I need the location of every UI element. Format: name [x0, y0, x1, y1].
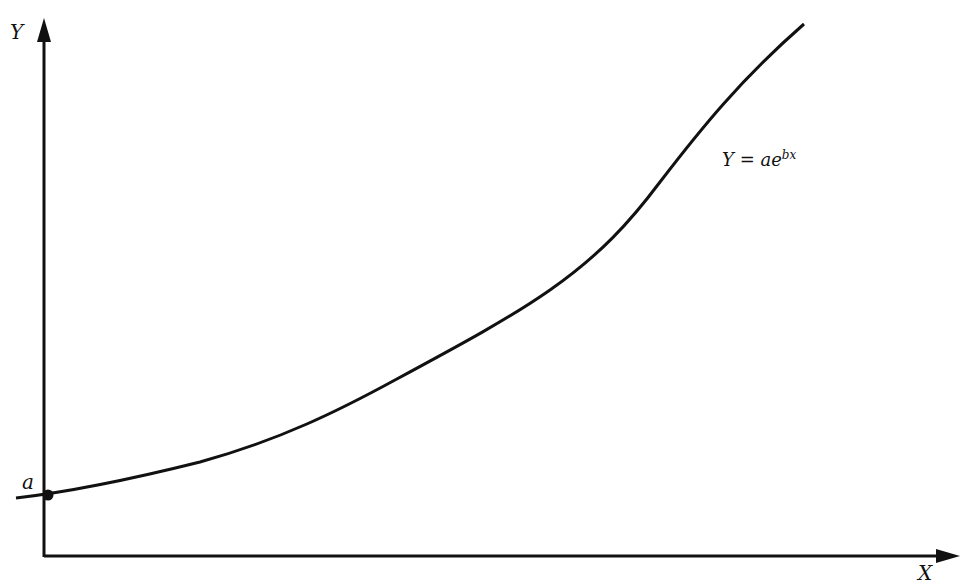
y-axis-arrow-icon [37, 18, 51, 42]
intercept-point-icon [43, 490, 54, 501]
equation-lhs: Y [722, 149, 734, 170]
x-axis-arrow-icon [936, 549, 960, 563]
equation-equals: = [740, 149, 755, 170]
x-axis-label: X [918, 561, 932, 585]
equation-label: Y = aebx [722, 148, 796, 170]
intercept-label: a [22, 470, 34, 494]
equation-exponent: bx [782, 148, 796, 162]
exponential-diagram: Y X a Y = aebx [0, 0, 971, 586]
exponential-curve [16, 24, 804, 498]
diagram-graphics [0, 0, 971, 586]
y-axis-label: Y [10, 20, 23, 44]
equation-base: ae [760, 149, 781, 170]
